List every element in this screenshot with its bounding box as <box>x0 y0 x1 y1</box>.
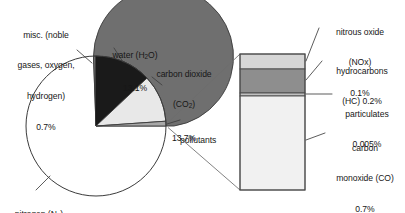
figure-canvas: misc. (noble gases, oxygen, hydrogen) 0.… <box>0 0 405 213</box>
pie-label-pollutants: pollutants <box>180 114 240 165</box>
bar-label-carbon-monoxide-value: 0.7% <box>326 204 404 213</box>
leader-line-nitrous-oxide <box>306 28 319 61</box>
pie-label-carbon-dioxide-line1: carbon dioxide <box>145 69 223 79</box>
pie-label-nitrogen: nitrogen (N2) 71.5% <box>0 188 78 213</box>
pie-label-pollutants-name: pollutants <box>180 135 240 145</box>
bar-label-carbon-monoxide-line2: monoxide (CO) <box>326 173 404 183</box>
bar-label-nitrous-oxide-line1: nitrous oxide <box>319 27 401 37</box>
stacked-bar-chart <box>240 54 305 190</box>
pie-label-misc: misc. (noble gases, oxygen, hydrogen) 0.… <box>4 9 88 153</box>
pie-label-misc-line2: gases, oxygen, <box>4 60 88 70</box>
pie-label-misc-value: 0.7% <box>4 122 88 132</box>
bar-label-hydrocarbons-line1: hydrocarbons <box>320 66 404 76</box>
bar-label-carbon-monoxide-line1: carbon <box>326 143 404 153</box>
bar-segment-hydrocarbons[interactable] <box>240 69 305 93</box>
pie-label-nitrogen-name: nitrogen (N2) <box>0 209 78 213</box>
pie-label-misc-line3: hydrogen) <box>4 91 88 101</box>
bar-label-particulates-line1: particulates <box>332 109 402 119</box>
leader-line-carbon-monoxide <box>306 133 325 140</box>
bar-segment-carbon-monoxide[interactable] <box>240 96 305 190</box>
pie-label-misc-line1: misc. (noble <box>4 30 88 40</box>
pie-label-carbon-dioxide-formula: (CO2) <box>145 99 223 111</box>
bar-segment-nitrous-oxide[interactable] <box>240 54 305 69</box>
bar-label-carbon-monoxide: carbon monoxide (CO) 0.7% <box>326 122 404 213</box>
